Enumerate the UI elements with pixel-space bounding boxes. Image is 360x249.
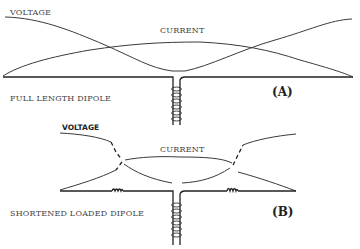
dipole-diagram: VOLTAGE CURRENT FULL LENGTH DIPOLE (A) V… xyxy=(0,0,360,249)
antenna-element-right-a xyxy=(180,77,353,125)
figure-tag-a: (A) xyxy=(272,85,293,99)
voltage-label-b: VOLTAGE xyxy=(62,123,99,132)
voltage-curve-b-left xyxy=(60,133,111,142)
current-curve-b-top xyxy=(125,157,232,163)
current-label-a: CURRENT xyxy=(160,26,205,35)
voltage-curve-b-lower-left xyxy=(60,170,116,190)
current-curve-b-bottom-right xyxy=(182,168,230,183)
voltage-dashed-transition-right xyxy=(233,145,243,165)
figure-tag-b: (B) xyxy=(272,205,294,219)
current-curve-b-bottom-left xyxy=(124,164,172,183)
voltage-dashed-transition-left xyxy=(111,142,122,160)
loading-coil-right xyxy=(227,189,238,192)
caption-b: SHORTENED LOADED DIPOLE xyxy=(10,209,144,218)
voltage-curve-b-right xyxy=(243,134,296,145)
full-length-dipole-diagram: VOLTAGE CURRENT FULL LENGTH DIPOLE (A) xyxy=(3,8,353,125)
antenna-element-left-b xyxy=(60,191,173,245)
voltage-dashed-lower-left xyxy=(116,162,122,170)
caption-a: FULL LENGTH DIPOLE xyxy=(10,94,111,103)
shortened-loaded-dipole-diagram: VOLTAGE CURRENT xyxy=(10,123,296,245)
current-curve-a xyxy=(3,42,353,77)
voltage-label-a: VOLTAGE xyxy=(9,8,51,17)
loading-coil-left xyxy=(112,189,123,191)
voltage-curve-b-lower-right xyxy=(238,172,296,191)
current-label-b: CURRENT xyxy=(160,145,205,154)
